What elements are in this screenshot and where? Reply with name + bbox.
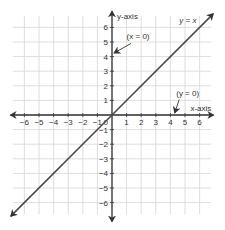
- line-label: y = x: [178, 16, 197, 25]
- x-tick-label: 4: [168, 118, 173, 127]
- x-tick-label: −6: [20, 118, 30, 127]
- x-zero-pointer: [114, 43, 131, 52]
- y-tick-label: −2: [99, 140, 109, 149]
- x-tick-label: −5: [34, 118, 44, 127]
- x-zero-label: (x = 0): [127, 32, 150, 41]
- line-positive-half: [112, 14, 213, 115]
- y-tick-label: 3: [104, 67, 109, 76]
- y-axis-label: y-axis: [117, 12, 138, 21]
- y-tick-label: −4: [99, 169, 109, 178]
- line-negative-half: [11, 115, 112, 216]
- x-axis-label: x-axis: [190, 104, 211, 113]
- x-tick-label: −2: [78, 118, 88, 127]
- coordinate-plane: −6−5−4−3−2−1123456−6−5−4−3−2−11234560 y-…: [0, 0, 225, 230]
- y-zero-pointer: [175, 100, 179, 113]
- y-tick-label: 4: [104, 53, 109, 62]
- y-tick-label: −3: [99, 155, 109, 164]
- y-tick-label: −6: [99, 199, 109, 208]
- x-tick-label: 3: [154, 118, 159, 127]
- y-tick-label: 6: [104, 23, 109, 32]
- y-tick-label: 2: [104, 82, 109, 91]
- y-tick-label: 5: [104, 38, 109, 47]
- x-tick-label: 5: [183, 118, 188, 127]
- x-tick-label: 1: [124, 118, 129, 127]
- x-tick-label: 2: [139, 118, 144, 127]
- x-tick-label: 6: [197, 118, 202, 127]
- y-tick-label: −5: [99, 184, 109, 193]
- y-zero-label: (y = 0): [176, 89, 199, 98]
- x-tick-label: −3: [64, 118, 74, 127]
- x-tick-label: −4: [49, 118, 59, 127]
- y-tick-label: 1: [104, 96, 109, 105]
